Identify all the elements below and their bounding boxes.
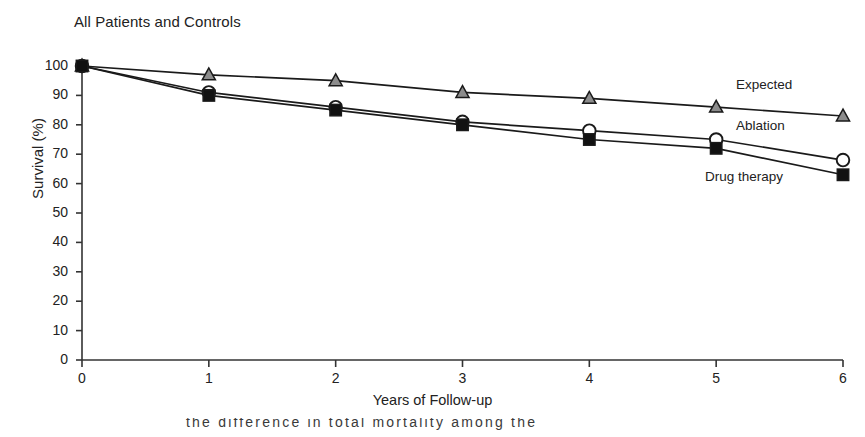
y-tick-label: 80 [28,116,68,132]
series-line-ablation [82,66,843,160]
y-tick-label: 40 [28,233,68,249]
marker-square-drug-therapy [837,169,849,181]
y-tick-label: 70 [28,145,68,161]
series-label-drug-therapy: Drug therapy [705,169,783,184]
y-tick-label: 0 [28,351,68,367]
y-tick-label: 10 [28,322,68,338]
marker-square-drug-therapy [76,60,88,72]
x-tick-label: 1 [194,370,224,386]
y-tick-label: 100 [28,57,68,73]
caption-text: the difference in total mortality among … [0,418,865,437]
caption-fragment: the difference in total mortality among … [186,418,537,430]
y-tick-label: 60 [28,175,68,191]
x-axis-label: Years of Follow-up [0,392,865,408]
x-tick-label: 4 [574,370,604,386]
marker-square-drug-therapy [710,143,722,155]
x-tick-label: 2 [321,370,351,386]
y-tick-label: 20 [28,292,68,308]
marker-circle-ablation [837,154,850,167]
x-tick-label: 5 [701,370,731,386]
x-tick-label: 0 [67,370,97,386]
series-label-expected: Expected [736,77,792,92]
marker-square-drug-therapy [584,134,596,146]
survival-curve-figure: All Patients and Controls Survival (%) Y… [0,0,865,437]
x-tick-label: 6 [828,370,858,386]
y-tick-label: 50 [28,204,68,220]
plot-area [0,0,865,437]
series-label-ablation: Ablation [736,118,785,133]
y-tick-label: 90 [28,86,68,102]
marker-square-drug-therapy [203,90,215,102]
x-tick-label: 3 [448,370,478,386]
y-tick-label: 30 [28,263,68,279]
marker-square-drug-therapy [457,119,469,131]
marker-square-drug-therapy [330,104,342,116]
